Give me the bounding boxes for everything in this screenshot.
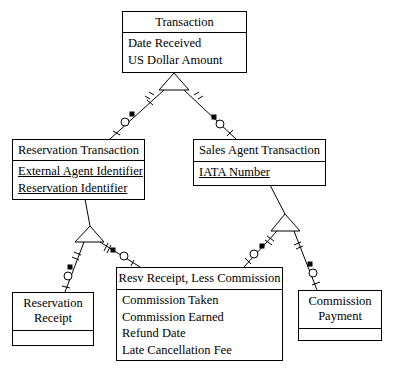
entity-commission-payment[interactable]: Commission Payment [298,290,382,341]
key-attribute: External Agent Identifier [18,163,140,180]
entity-attributes: Date Received US Dollar Amount [123,33,246,68]
key-attribute: IATA Number [199,164,321,181]
entity-resv-receipt-less-commission[interactable]: Resv Receipt, Less Commission Commission… [116,267,283,361]
attribute: Refund Date [122,325,278,342]
entity-title: Reservation Transaction [13,140,144,161]
entity-title-line: Payment [299,309,381,324]
entity-attributes: IATA Number [194,162,325,181]
entity-title: Commission Payment [299,291,381,329]
entity-transaction[interactable]: Transaction Date Received US Dollar Amou… [122,11,247,73]
entity-attributes: External Agent Identifier Reservation Id… [13,161,144,196]
entity-reservation-transaction[interactable]: Reservation Transaction External Agent I… [12,139,145,200]
attribute: Commission Earned [122,309,278,326]
entity-attributes: Commission Taken Commission Earned Refun… [117,290,282,358]
entity-title: Transaction [123,12,246,33]
entity-reservation-receipt[interactable]: Reservation Receipt [12,292,94,346]
entity-title-line: Reservation [13,296,93,311]
attribute: Commission Taken [122,292,278,309]
attribute: Date Received [128,35,242,52]
entity-title: Reservation Receipt [13,293,93,331]
entity-sales-agent-transaction[interactable]: Sales Agent Transaction IATA Number [193,139,326,186]
key-attribute: Reservation Identifier [18,180,140,197]
entity-title-line: Commission [299,294,381,309]
attribute: US Dollar Amount [128,52,242,69]
attribute: Late Cancellation Fee [122,342,278,359]
entity-title: Sales Agent Transaction [194,140,325,162]
entity-title: Resv Receipt, Less Commission [117,268,282,290]
entity-title-line: Receipt [13,311,93,326]
subtype-triangle-transaction [110,73,236,139]
